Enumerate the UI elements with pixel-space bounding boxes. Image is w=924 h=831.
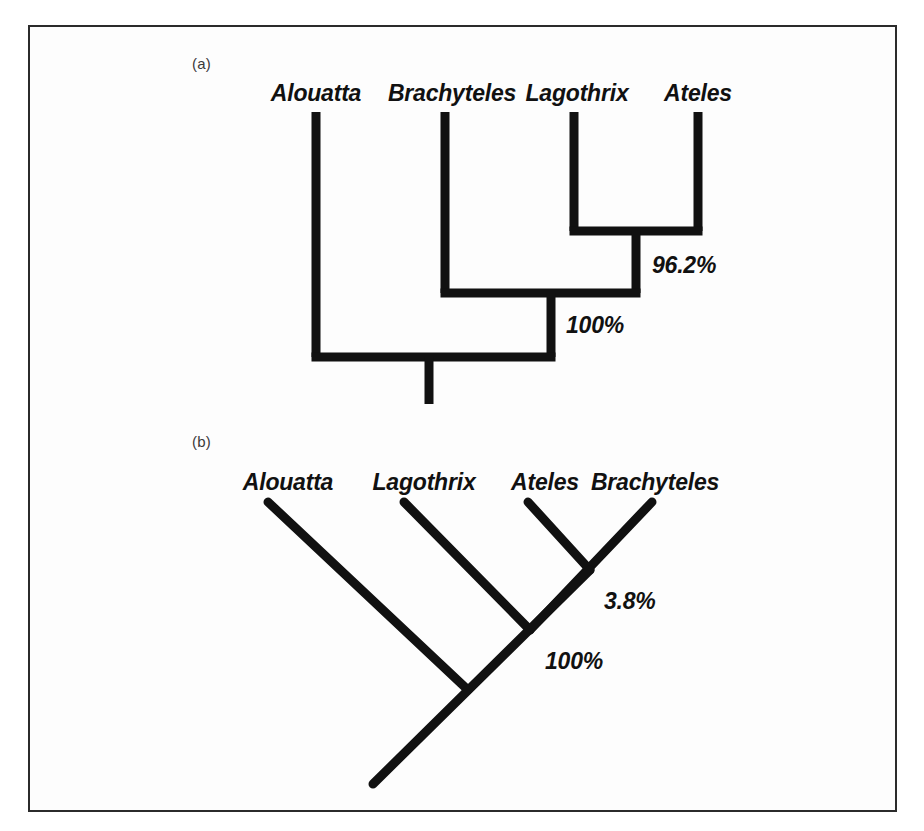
panel-a-taxon-ateles: Ateles — [664, 80, 732, 107]
panel-b-support-100: 100% — [545, 648, 603, 675]
panel-a-taxon-brachyteles: Brachyteles — [388, 80, 516, 107]
figure-root: (a) Alouatta Brachyteles Lagothrix Atele… — [0, 0, 924, 831]
panel-a-support-100: 100% — [566, 312, 624, 339]
panel-a-label: (a) — [192, 55, 211, 72]
panel-b-support-38: 3.8% — [604, 588, 656, 615]
panel-b-taxon-brachyteles: Brachyteles — [591, 469, 719, 496]
panel-a-support-962: 96.2% — [652, 252, 716, 279]
panel-b-taxon-alouatta: Alouatta — [243, 469, 333, 496]
panel-a-taxon-lagothrix: Lagothrix — [526, 80, 629, 107]
panel-b-taxon-lagothrix: Lagothrix — [373, 469, 476, 496]
panel-a-taxon-alouatta: Alouatta — [271, 80, 361, 107]
figure-border-frame — [28, 25, 897, 812]
panel-b-taxon-ateles: Ateles — [511, 469, 579, 496]
panel-b-label: (b) — [192, 433, 211, 450]
